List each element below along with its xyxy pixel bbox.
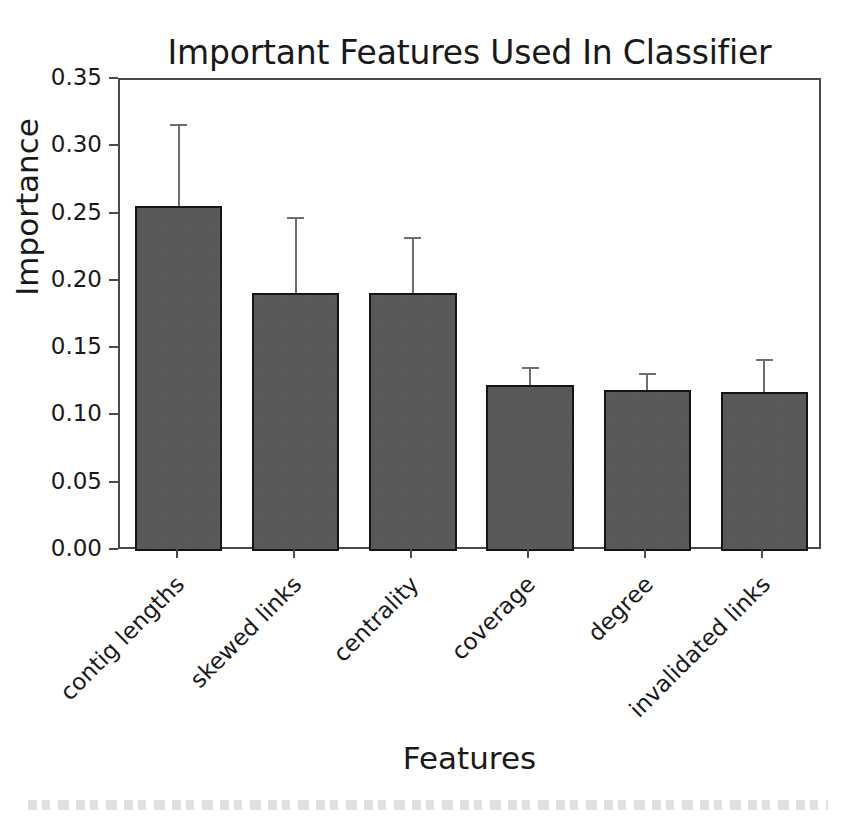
x-tick-line bbox=[527, 549, 529, 558]
y-tick-label: 0.25 bbox=[12, 199, 102, 225]
plot-area bbox=[118, 78, 821, 549]
y-tick-label: 0.05 bbox=[12, 468, 102, 494]
error-bar-cap bbox=[170, 124, 187, 126]
error-bar-cap bbox=[287, 217, 304, 219]
x-tick-line bbox=[761, 549, 763, 558]
y-tick-label: 0.20 bbox=[12, 266, 102, 292]
error-bar-stem bbox=[646, 373, 648, 389]
error-bar-stem bbox=[529, 367, 531, 386]
error-bar-cap bbox=[522, 367, 539, 369]
error-bar-stem bbox=[295, 217, 297, 292]
error-bar-stem bbox=[763, 359, 765, 393]
bar bbox=[252, 293, 339, 551]
x-tick-label: degree bbox=[582, 571, 657, 646]
x-tick-label: coverage bbox=[447, 571, 541, 665]
y-tick-line bbox=[109, 212, 118, 214]
y-tick-line bbox=[109, 77, 118, 79]
error-bar-cap bbox=[404, 237, 421, 239]
y-tick-line bbox=[109, 548, 118, 550]
y-tick-line bbox=[109, 144, 118, 146]
y-tick-label: 0.00 bbox=[12, 535, 102, 561]
x-tick-line bbox=[644, 549, 646, 558]
error-bar-cap bbox=[756, 359, 773, 361]
error-bar-stem bbox=[412, 237, 414, 292]
error-bar-cap bbox=[639, 373, 656, 375]
y-tick-line bbox=[109, 481, 118, 483]
y-tick-line bbox=[109, 346, 118, 348]
bar bbox=[721, 392, 808, 551]
x-tick-line bbox=[293, 549, 295, 558]
bar bbox=[486, 385, 573, 551]
bar bbox=[135, 206, 222, 551]
x-tick-label: centrality bbox=[328, 571, 424, 667]
y-tick-label: 0.35 bbox=[12, 64, 102, 90]
y-tick-line bbox=[109, 279, 118, 281]
page-scan-artifact bbox=[28, 800, 828, 810]
bar bbox=[604, 390, 691, 551]
error-bar-stem bbox=[178, 124, 180, 206]
y-tick-label: 0.30 bbox=[12, 131, 102, 157]
chart-title: Important Features Used In Classifier bbox=[118, 34, 821, 72]
y-tick-line bbox=[109, 413, 118, 415]
x-axis-label: Features bbox=[118, 740, 821, 776]
x-tick-line bbox=[176, 549, 178, 558]
x-tick-label: contig lengths bbox=[55, 571, 189, 705]
y-tick-label: 0.10 bbox=[12, 400, 102, 426]
bar bbox=[369, 293, 456, 551]
x-tick-label: skewed links bbox=[184, 571, 306, 693]
x-tick-line bbox=[410, 549, 412, 558]
y-tick-label: 0.15 bbox=[12, 333, 102, 359]
figure: Important Features Used In Classifier Im… bbox=[0, 0, 858, 818]
